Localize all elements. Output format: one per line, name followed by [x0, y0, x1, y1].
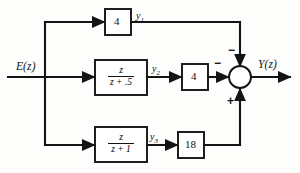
middle-gain-value: 4	[191, 71, 197, 82]
summer-sign-top: −	[228, 44, 235, 56]
middle-tf-numerator: z	[95, 66, 147, 76]
block-diagram-figure: E(z) Y(z) 4 y1 z z + .5 y2 4 z z + 1 y3 …	[0, 0, 300, 173]
signal-y3-sub: 3	[154, 137, 158, 145]
bottom-tf-numerator: z	[95, 133, 147, 143]
summer-sign-bottom: +	[227, 95, 234, 107]
diagram-canvas	[0, 0, 300, 173]
bottom-gain-value: 18	[185, 139, 196, 150]
middle-transfer-function-expression: z z + .5	[95, 66, 147, 88]
input-label: E(z)	[16, 61, 36, 73]
signal-y2-sub: 2	[156, 69, 160, 77]
signal-label-y1: y1	[136, 11, 144, 24]
summer-sign-left: −	[214, 57, 221, 69]
signal-y1-sub: 1	[140, 16, 144, 24]
bottom-tf-denominator: z + 1	[95, 144, 147, 155]
signal-label-y3: y3	[150, 132, 158, 145]
signal-label-y2: y2	[152, 64, 160, 77]
middle-tf-denominator: z + .5	[95, 77, 147, 88]
output-label: Y(z)	[258, 59, 277, 71]
bottom-transfer-function-expression: z z + 1	[95, 133, 147, 155]
summing-junction	[229, 66, 251, 88]
top-gain-value: 4	[114, 16, 120, 27]
